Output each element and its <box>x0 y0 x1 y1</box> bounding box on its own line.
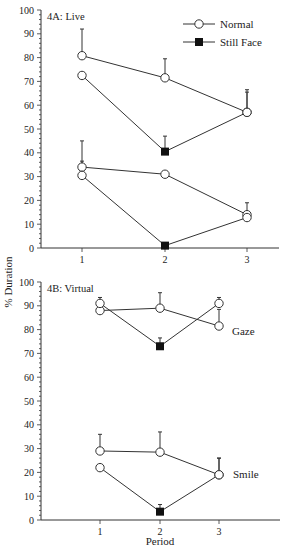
panel-a-title: 4A: Live <box>47 11 85 22</box>
smile-annotation: Smile <box>233 468 259 480</box>
y-tick-label: 50 <box>24 396 34 407</box>
y-tick-label: 60 <box>24 372 34 383</box>
normal-marker-icon <box>78 171 86 179</box>
still-face-marker-icon <box>161 148 169 156</box>
still-face-marker-icon <box>156 342 164 350</box>
legend: Normal Still Face <box>183 18 262 48</box>
panel-b-title: 4B: Virtual <box>47 283 94 294</box>
y-tick-label: 50 <box>24 124 34 135</box>
y-tick-label: 100 <box>19 277 34 288</box>
normal-marker-icon <box>78 163 86 171</box>
gaze-annotation: Gaze <box>232 325 255 337</box>
normal-marker-icon <box>78 71 86 79</box>
normal-marker-icon <box>96 463 104 471</box>
legend-still-face-label: Still Face <box>220 36 262 48</box>
normal-marker-icon <box>156 448 164 456</box>
x-tick-label: 1 <box>80 254 85 265</box>
normal-marker-icon <box>215 471 223 479</box>
series-line <box>82 175 247 245</box>
y-tick-label: 30 <box>24 443 34 454</box>
still-face-marker-icon <box>156 508 164 516</box>
figure: 0102030405060708090100123 01020304050607… <box>0 0 287 553</box>
legend-normal-label: Normal <box>220 18 254 30</box>
y-tick-label: 80 <box>24 52 34 63</box>
normal-marker-icon <box>243 108 251 116</box>
y-tick-label: 0 <box>29 243 34 254</box>
y-axis-title: % Duration <box>2 256 14 308</box>
y-tick-label: 90 <box>24 28 34 39</box>
x-tick-label: 2 <box>163 254 168 265</box>
y-tick-label: 80 <box>24 324 34 335</box>
x-tick-label: 3 <box>217 526 222 537</box>
y-tick-label: 30 <box>24 171 34 182</box>
normal-marker-icon <box>96 299 104 307</box>
normal-marker-icon <box>96 447 104 455</box>
x-tick-label: 3 <box>245 254 250 265</box>
y-tick-label: 70 <box>24 76 34 87</box>
y-tick-label: 0 <box>29 515 34 526</box>
normal-marker-icon <box>78 51 86 59</box>
normal-marker-icon <box>161 170 169 178</box>
panel-4b-virtual: 0102030405060708090100123 <box>19 277 280 538</box>
y-tick-label: 70 <box>24 348 34 359</box>
y-tick-label: 20 <box>24 195 34 206</box>
y-tick-label: 10 <box>24 491 34 502</box>
legend-still-face-marker-icon <box>195 38 203 46</box>
x-axis-title: Period <box>146 535 175 547</box>
normal-marker-icon <box>243 213 251 221</box>
y-tick-label: 60 <box>24 100 34 111</box>
normal-marker-icon <box>215 322 223 330</box>
still-face-marker-icon <box>161 242 169 250</box>
y-tick-label: 90 <box>24 300 34 311</box>
y-tick-label: 100 <box>19 5 34 16</box>
y-tick-label: 10 <box>24 219 34 230</box>
legend-normal-marker-icon <box>195 20 203 28</box>
y-tick-label: 40 <box>24 419 34 430</box>
x-tick-label: 1 <box>98 526 103 537</box>
normal-marker-icon <box>161 74 169 82</box>
normal-marker-icon <box>215 299 223 307</box>
normal-marker-icon <box>156 304 164 312</box>
y-tick-label: 20 <box>24 467 34 478</box>
y-tick-label: 40 <box>24 147 34 158</box>
